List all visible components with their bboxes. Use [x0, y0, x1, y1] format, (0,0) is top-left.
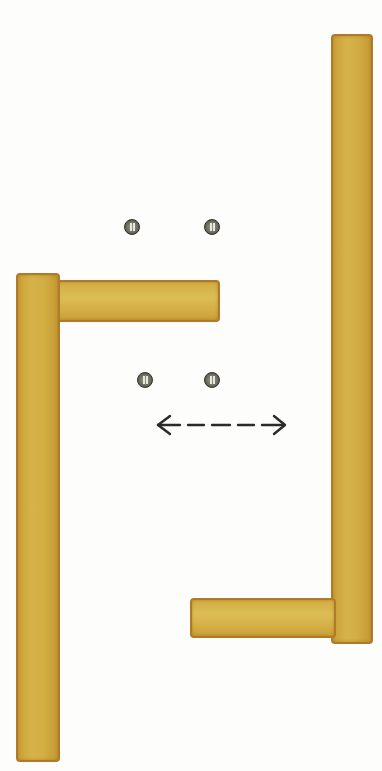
left-horizontal-plank — [54, 280, 220, 322]
double-arrow-icon — [152, 410, 292, 440]
screw-icon — [137, 372, 153, 388]
right-horizontal-plank — [190, 598, 336, 638]
right-vertical-plank — [331, 34, 373, 644]
screw-icon — [204, 372, 220, 388]
screw-icon — [204, 219, 220, 235]
left-vertical-plank — [16, 273, 60, 762]
screw-icon — [124, 219, 140, 235]
